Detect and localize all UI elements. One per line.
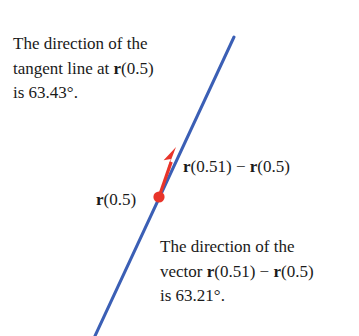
caption-vector-line-2-vector-b: r: [269, 262, 281, 281]
label-secant-vector-a: r: [183, 157, 191, 176]
label-secant-vector-b: r: [245, 157, 257, 176]
caption-vector-line-3: is 63.21°.: [160, 284, 314, 309]
caption-tangent-line-3: is 63.43°.: [13, 81, 154, 106]
label-secant-arg-b: (0.5): [257, 157, 290, 176]
figure-canvas: The direction of the tangent line at r(0…: [0, 0, 359, 336]
caption-vector-line-2-arg-a: (0.51): [214, 262, 259, 281]
caption-tangent-direction: The direction of the tangent line at r(0…: [13, 32, 154, 106]
caption-tangent-line-2-prefix: tangent line at: [13, 59, 114, 78]
caption-vector-direction: The direction of the vector r(0.51) − r(…: [160, 235, 314, 309]
caption-vector-line-2-arg-b: (0.5): [281, 262, 314, 281]
label-secant-vector: r(0.51) − r(0.5): [183, 157, 290, 177]
caption-vector-line-2-minus: −: [260, 262, 270, 281]
caption-tangent-line-2-vector: r: [114, 59, 122, 78]
caption-vector-line-2: vector r(0.51) − r(0.5): [160, 260, 314, 285]
caption-vector-line-1: The direction of the: [160, 235, 314, 260]
caption-vector-line-2-prefix: vector: [160, 262, 207, 281]
label-secant-arg-a: (0.51): [191, 157, 236, 176]
caption-tangent-line-2-suffix: (0.5): [121, 59, 154, 78]
label-point-vector: r: [96, 190, 104, 209]
point-marker-r-half: [153, 191, 164, 202]
label-point-r-half: r(0.5): [96, 190, 136, 210]
label-point-arg: (0.5): [104, 190, 137, 209]
caption-tangent-line-2: tangent line at r(0.5): [13, 57, 154, 82]
caption-tangent-line-1: The direction of the: [13, 32, 154, 57]
